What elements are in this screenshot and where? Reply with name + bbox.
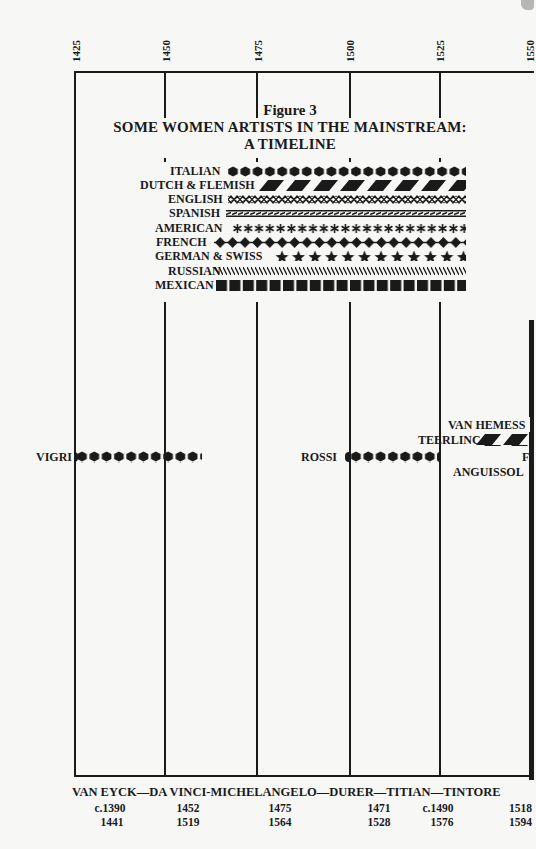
van-eyck-born: c.1390 [80, 801, 140, 815]
legend-label: DUTCH & FLEMISH [140, 178, 255, 192]
figure-number: Figure 3 [70, 101, 510, 119]
artist-label-vigri: VIGRI [36, 450, 72, 464]
tintoretto-died: 1594 [484, 815, 532, 829]
figure-title-line1: SOME WOMEN ARTISTS IN THE MAINSTREAM: [70, 119, 510, 136]
russian-pattern-icon [215, 267, 466, 278]
artist-label-anguissola: ANGUISSOL [453, 465, 524, 479]
ref-name-durer: DURER [329, 785, 373, 799]
tick-label-1500: 1500 [344, 40, 356, 62]
michelangelo-born: 1475 [250, 801, 310, 815]
legend-label: FRENCH [156, 235, 207, 249]
dutch-flemish-pattern-icon [259, 180, 466, 191]
tick-label-1450: 1450 [160, 40, 172, 62]
german-swiss-pattern-icon [274, 250, 466, 261]
figure-title-block: Figure 3 SOME WOMEN ARTISTS IN THE MAINS… [70, 101, 510, 153]
page-smudge [521, 0, 534, 10]
titian-born: c.1490 [408, 801, 468, 815]
legend-label: ENGLISH [168, 192, 223, 206]
tick-label-1550: 1550 [524, 40, 536, 62]
english-pattern-icon [228, 195, 466, 206]
american-pattern-icon [232, 223, 466, 234]
michelangelo-died: 1564 [250, 815, 310, 829]
tick-label-1425: 1425 [70, 40, 82, 62]
ref-name-van-eyck: VAN EYCK [72, 785, 137, 799]
italian-bar-rossi [350, 451, 436, 463]
tintoretto-born: 1518 [484, 801, 532, 815]
durer-died: 1528 [349, 815, 409, 829]
legend-label: AMERICAN [155, 221, 222, 235]
french-pattern-icon [214, 237, 466, 248]
legend-label: GERMAN & SWISS [155, 249, 262, 263]
ref-name-tintoretto: TINTORE [443, 785, 500, 799]
separator: — [431, 785, 444, 799]
bottom-axis-line [74, 775, 534, 777]
artist-label-rossi: ROSSI [301, 450, 337, 464]
legend-label: RUSSIAN [168, 264, 221, 278]
top-axis-line [74, 71, 534, 73]
spanish-pattern-icon [226, 210, 466, 221]
ref-name-titian: TITIAN [386, 785, 430, 799]
reference-artist-names: VAN EYCK—DA VINCI-MICHELANGELO—DURER—TIT… [72, 785, 501, 800]
artist-label-van-hemessen: VAN HEMESS [448, 418, 525, 432]
legend-label: MEXICAN [155, 278, 214, 292]
da-vinci-died: 1519 [158, 815, 218, 829]
separator: — [317, 785, 330, 799]
tick-label-1475: 1475 [252, 40, 264, 62]
titian-died: 1576 [412, 815, 472, 829]
durer-born: 1471 [349, 801, 409, 815]
dutch-flemish-bar-teerlinc [476, 434, 530, 446]
separator: — [137, 785, 150, 799]
ref-name-michelangelo: MICHELANGELO [210, 785, 316, 799]
ref-name-da-vinci: DA VINCI [149, 785, 206, 799]
tick-label-1525: 1525 [434, 40, 446, 62]
italian-bar-vigri [76, 451, 202, 463]
artist-label-teerlinc: TEERLINC [418, 433, 481, 447]
legend-label: ITALIAN [170, 164, 220, 178]
rossi-bar-cap [345, 452, 349, 462]
separator: — [374, 785, 387, 799]
gridline-1425 [74, 71, 76, 777]
figure-title-line2: A TIMELINE [70, 136, 510, 153]
mexican-pattern-icon [216, 280, 466, 291]
rossi-bar-end [437, 452, 440, 462]
page-binding-edge [529, 320, 534, 780]
legend-label: SPANISH [169, 206, 220, 220]
italian-pattern-icon [227, 166, 466, 177]
van-eyck-died: 1441 [82, 815, 142, 829]
da-vinci-born: 1452 [158, 801, 218, 815]
artist-label-f-cut: F [522, 450, 529, 464]
